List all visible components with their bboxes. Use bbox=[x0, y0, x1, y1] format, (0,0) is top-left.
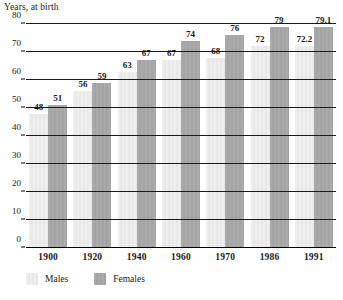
y-tick-label: 50 bbox=[12, 95, 21, 104]
gridline bbox=[26, 79, 336, 80]
y-tick-mark bbox=[21, 219, 25, 220]
legend-item-males: Males bbox=[26, 273, 68, 285]
y-tick-label: 40 bbox=[12, 123, 21, 132]
bar-value-label: 56 bbox=[78, 79, 87, 89]
gridline bbox=[26, 51, 336, 52]
x-tick-label: 1970 bbox=[203, 252, 247, 263]
y-tick-mark bbox=[21, 23, 25, 24]
legend-label: Males bbox=[45, 274, 68, 285]
y-tick-mark bbox=[21, 163, 25, 164]
bar-value-label: 51 bbox=[53, 93, 62, 103]
gridline bbox=[26, 23, 336, 24]
bar-value-label: 72 bbox=[256, 34, 265, 44]
bar-females-1970: 76 bbox=[225, 35, 244, 248]
y-tick-label: 70 bbox=[12, 39, 21, 48]
y-tick-mark bbox=[21, 247, 25, 248]
y-tick-mark bbox=[21, 135, 25, 136]
gridline bbox=[26, 107, 336, 108]
y-tick-label: 0 bbox=[17, 235, 22, 244]
bar-females-1960: 74 bbox=[181, 41, 200, 248]
y-tick-mark bbox=[21, 79, 25, 80]
bar-males-1900: 48 bbox=[29, 114, 48, 248]
legend-swatch-females bbox=[94, 273, 106, 285]
gridline bbox=[26, 163, 336, 164]
y-tick-mark bbox=[21, 107, 25, 108]
bar-group: 6876 bbox=[203, 24, 247, 248]
gridline bbox=[26, 219, 336, 220]
y-tick-label: 20 bbox=[12, 179, 21, 188]
bar-value-label: 74 bbox=[186, 29, 195, 39]
bar-females-1991: 79.1 bbox=[314, 27, 333, 248]
bar-males-1986: 72 bbox=[251, 46, 270, 248]
legend-swatch-males bbox=[26, 273, 38, 285]
bar-group: 7279 bbox=[247, 24, 291, 248]
x-tick-label: 1940 bbox=[115, 252, 159, 263]
bar-value-label: 72.2 bbox=[296, 34, 312, 44]
bar-group: 6774 bbox=[159, 24, 203, 248]
plot-area: 01020304050607080 4851565963676774687672… bbox=[26, 24, 336, 248]
bar-females-1900: 51 bbox=[48, 105, 67, 248]
y-tick-label: 80 bbox=[12, 11, 21, 20]
legend-label: Females bbox=[113, 274, 145, 285]
x-axis-labels: 1900192019401960197019861991 bbox=[26, 252, 336, 263]
life-expectancy-bar-chart: Years, at birth 01020304050607080 485156… bbox=[0, 0, 343, 300]
y-tick-mark bbox=[21, 51, 25, 52]
x-axis-baseline bbox=[26, 247, 336, 248]
x-tick-label: 1960 bbox=[159, 252, 203, 263]
y-tick-label: 30 bbox=[12, 151, 21, 160]
bar-groups: 48515659636767746876727972.279.1 bbox=[26, 24, 336, 248]
bar-value-label: 67 bbox=[142, 48, 151, 58]
y-tick-label: 10 bbox=[12, 207, 21, 216]
x-tick-label: 1900 bbox=[26, 252, 70, 263]
bar-value-label: 63 bbox=[123, 60, 132, 70]
gridline bbox=[26, 135, 336, 136]
bar-group: 5659 bbox=[70, 24, 114, 248]
bar-group: 6367 bbox=[115, 24, 159, 248]
x-tick-label: 1991 bbox=[292, 252, 336, 263]
bar-group: 72.279.1 bbox=[292, 24, 336, 248]
chart-legend: MalesFemales bbox=[26, 273, 145, 285]
bar-group: 4851 bbox=[26, 24, 70, 248]
y-tick-mark bbox=[21, 191, 25, 192]
x-tick-label: 1920 bbox=[70, 252, 114, 263]
bar-value-label: 67 bbox=[167, 48, 176, 58]
bar-males-1920: 56 bbox=[73, 91, 92, 248]
y-tick-label: 60 bbox=[12, 67, 21, 76]
legend-item-females: Females bbox=[94, 273, 145, 285]
bar-females-1986: 79 bbox=[270, 27, 289, 248]
bar-males-1991: 72.2 bbox=[295, 46, 314, 248]
gridline bbox=[26, 191, 336, 192]
x-tick-label: 1986 bbox=[247, 252, 291, 263]
bar-value-label: 76 bbox=[230, 23, 239, 33]
bar-males-1940: 63 bbox=[118, 72, 137, 248]
